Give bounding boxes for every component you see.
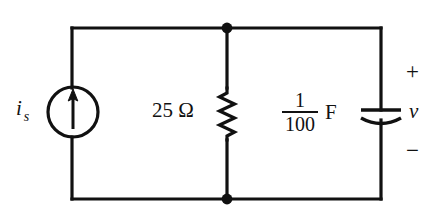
current-source-label-subscript: s <box>22 109 29 124</box>
capacitor-unit: F <box>318 102 337 123</box>
current-source-label-symbol: i <box>16 96 22 120</box>
capacitor-label: 1 100 F <box>282 90 337 134</box>
current-source-label: is <box>16 98 29 124</box>
capacitor-value-fraction: 1 100 <box>282 90 318 134</box>
resistor-label: 25 Ω <box>152 100 194 121</box>
resistor-symbol <box>220 88 235 140</box>
voltage-plus-sign: + <box>406 60 419 83</box>
circuit-schematic-canvas <box>0 0 439 222</box>
node-dot-bottom <box>222 194 233 205</box>
voltage-label: v <box>409 101 418 122</box>
circuit-diagram: is 25 Ω 1 100 F + v − <box>0 0 439 222</box>
capacitor-value-denominator: 100 <box>282 113 318 134</box>
node-dot-top <box>222 23 233 34</box>
capacitor-value-numerator: 1 <box>292 90 308 111</box>
voltage-minus-sign: − <box>406 139 419 162</box>
current-source-symbol <box>48 87 98 137</box>
